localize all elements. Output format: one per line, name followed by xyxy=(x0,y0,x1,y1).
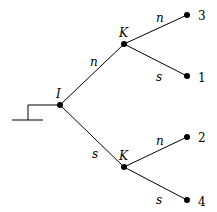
game-tree-diagram: I K K n s n s n s 3 1 2 4 xyxy=(0,0,217,212)
node-label-lower: K xyxy=(118,149,129,163)
leaf-label-4: 4 xyxy=(198,195,206,209)
node-label-root: I xyxy=(55,87,61,101)
edge-label-lower-top: n xyxy=(156,134,164,148)
edge-label-root-upper: n xyxy=(90,55,98,69)
leaf-1 xyxy=(184,12,190,18)
edge-label-upper-bottom: s xyxy=(156,70,162,84)
leaf-4 xyxy=(184,197,190,203)
leaf-label-3: 2 xyxy=(198,131,206,145)
node-label-upper: K xyxy=(118,26,129,40)
edge-label-root-lower: s xyxy=(92,147,98,161)
leaf-3 xyxy=(184,134,190,140)
leaf-label-1: 3 xyxy=(198,9,206,23)
edge-label-upper-top: n xyxy=(156,11,164,25)
node-lower xyxy=(121,164,127,170)
start-marker xyxy=(12,105,60,120)
edge-root-upper xyxy=(60,44,124,105)
edge-label-lower-bottom: s xyxy=(156,193,162,207)
leaf-2 xyxy=(184,73,190,79)
leaf-label-2: 1 xyxy=(198,71,206,85)
node-root xyxy=(57,102,63,108)
node-upper xyxy=(121,41,127,47)
